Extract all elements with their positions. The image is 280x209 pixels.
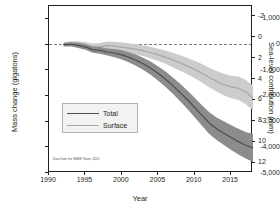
x-tick-label: 1995 xyxy=(69,176,99,183)
y-tick-mark xyxy=(45,95,48,96)
y2-tick-label: 0 xyxy=(258,33,280,40)
legend-label: Surface xyxy=(103,120,127,132)
x-tick-label: 2015 xyxy=(215,176,245,183)
figure: Mass change (gigatons) Sea-level contrib… xyxy=(0,0,280,209)
legend-swatch-total xyxy=(67,113,99,114)
x-tick-mark xyxy=(230,172,231,175)
x-tick-mark xyxy=(121,172,122,175)
y-tick-mark xyxy=(45,121,48,122)
y-axis-title: Mass change (gigatons) xyxy=(10,52,19,132)
y2-tick-label: -2 xyxy=(258,12,280,19)
chart-legend[interactable]: TotalSurface xyxy=(62,103,138,133)
x-tick-mark xyxy=(48,172,49,175)
x-tick-mark xyxy=(157,172,158,175)
y2-tick-mark xyxy=(252,141,255,142)
x-tick-label: 1990 xyxy=(33,176,63,183)
plot-svg xyxy=(49,6,253,173)
y-tick-mark xyxy=(45,18,48,19)
y-tick-mark xyxy=(45,69,48,70)
y2-tick-mark xyxy=(252,120,255,121)
x-tick-mark xyxy=(84,172,85,175)
x-tick-mark xyxy=(194,172,195,175)
y2-tick-label: 2 xyxy=(258,54,280,61)
plot-area xyxy=(48,5,252,172)
y2-tick-mark xyxy=(252,57,255,58)
y-tick-mark xyxy=(45,146,48,147)
source-annotation: Data from the IMBIE Team, 2020 xyxy=(53,157,99,161)
y2-tick-mark xyxy=(252,15,255,16)
y2-tick-label: 4 xyxy=(258,75,280,82)
x-tick-label: 2010 xyxy=(179,176,209,183)
y-tick-label: -1,000 xyxy=(240,66,280,73)
y2-tick-label: 10 xyxy=(258,137,280,144)
x-tick-label: 2005 xyxy=(142,176,172,183)
y2-tick-mark xyxy=(252,36,255,37)
y2-tick-mark xyxy=(252,162,255,163)
y-tick-label: -5,000 xyxy=(240,169,280,176)
x-axis-title: Year xyxy=(0,194,280,203)
legend-swatch-surface xyxy=(67,125,99,126)
y2-tick-mark xyxy=(252,99,255,100)
y2-tick-label: 8 xyxy=(258,116,280,123)
x-tick-label: 2000 xyxy=(106,176,136,183)
legend-item-total[interactable]: Total xyxy=(67,108,137,120)
y2-tick-label: 6 xyxy=(258,95,280,102)
legend-label: Total xyxy=(103,108,118,120)
legend-item-surface[interactable]: Surface xyxy=(67,120,137,132)
y2-tick-label: 12 xyxy=(258,158,280,165)
y-tick-mark xyxy=(45,44,48,45)
y-tick-label: 0 xyxy=(240,40,280,47)
y2-tick-mark xyxy=(252,78,255,79)
